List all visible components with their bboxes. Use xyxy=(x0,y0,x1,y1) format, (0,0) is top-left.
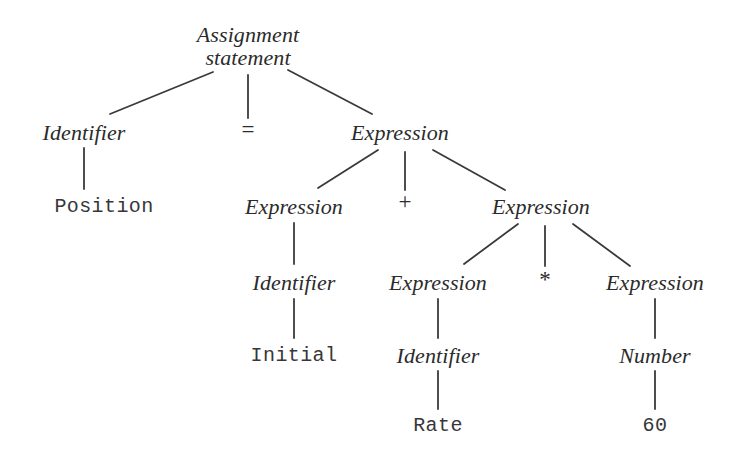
tree-node-label: = xyxy=(242,117,255,142)
tree-node-label: Identifier xyxy=(253,270,336,295)
tree-edge xyxy=(433,150,505,190)
tree-node-label: Expression xyxy=(492,194,590,219)
tree-node-terminal: 60 xyxy=(643,415,668,436)
tree-edge xyxy=(573,224,630,266)
tree-node-label: Initial xyxy=(251,344,338,367)
tree-node-label: Number xyxy=(619,343,691,368)
tree-node-nonterminal: Identifier xyxy=(43,121,126,144)
tree-node-operator: = xyxy=(242,118,255,142)
tree-node-nonterminal: Expression xyxy=(245,195,343,218)
tree-node-terminal: Initial xyxy=(251,345,338,366)
tree-node-label: Expression xyxy=(351,120,449,145)
tree-node-nonterminal: Identifier xyxy=(397,344,480,367)
tree-node-label: + xyxy=(399,189,412,214)
tree-edge xyxy=(464,224,518,264)
tree-node-nonterminal: Expression xyxy=(606,271,704,294)
tree-node-label: Expression xyxy=(606,270,704,295)
tree-node-terminal: Rate xyxy=(413,415,463,436)
tree-node-label: 60 xyxy=(643,414,668,437)
tree-node-label: Identifier xyxy=(397,343,480,368)
tree-node-label-line-2: statement xyxy=(197,46,299,69)
tree-edge-layer xyxy=(0,0,748,467)
tree-node-nonterminal: Expression xyxy=(492,195,590,218)
tree-node-label: Assignment xyxy=(197,22,299,47)
tree-node-label: Position xyxy=(54,195,153,218)
parse-tree-diagram: AssignmentstatementIdentifier=Expression… xyxy=(0,0,748,467)
tree-edge xyxy=(288,70,372,114)
tree-node-nonterminal: Expression xyxy=(389,271,487,294)
tree-node-nonterminal: Assignmentstatement xyxy=(197,23,299,70)
tree-edge xyxy=(110,72,213,114)
tree-node-label: Rate xyxy=(413,414,463,437)
tree-node-nonterminal: Expression xyxy=(351,121,449,144)
tree-node-terminal: Position xyxy=(54,196,153,217)
tree-node-nonterminal: Identifier xyxy=(253,271,336,294)
tree-node-nonterminal: Number xyxy=(619,344,691,367)
tree-node-label: * xyxy=(539,267,551,292)
tree-edge xyxy=(318,150,378,188)
tree-node-label: Identifier xyxy=(43,120,126,145)
tree-node-operator: + xyxy=(399,190,412,214)
tree-node-operator: * xyxy=(539,268,551,292)
tree-node-label: Expression xyxy=(389,270,487,295)
tree-node-label: Expression xyxy=(245,194,343,219)
